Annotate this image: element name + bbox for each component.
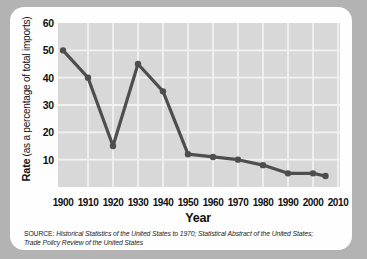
data-point [185, 151, 191, 157]
y-tick-label: 10 [43, 154, 55, 166]
page-background: 1020304050601900191019201930194019501960… [0, 0, 367, 259]
data-point [310, 170, 316, 176]
source-text-line2: Trade Policy Review of the United States [24, 238, 344, 247]
data-point [260, 162, 266, 168]
source-label: SOURCE: [24, 230, 54, 237]
x-tick-label: 1980 [253, 197, 274, 208]
x-tick-label: 1930 [128, 197, 149, 208]
y-tick-label: 60 [43, 17, 55, 29]
x-tick-label: 1970 [228, 197, 249, 208]
y-tick-label: 40 [43, 72, 55, 84]
data-point [235, 156, 241, 162]
x-tick-label: 1950 [178, 197, 199, 208]
y-axis-title-rate: Rate [20, 158, 32, 181]
source-note: SOURCE:Historical Statistics of the Unit… [24, 229, 344, 247]
data-point [285, 170, 291, 176]
source-line-1: SOURCE:Historical Statistics of the Unit… [24, 229, 344, 238]
y-axis-title: Rate(as a percentage of total imports) [20, 17, 32, 182]
x-tick-label: 1910 [78, 197, 99, 208]
tariff-rate-line-chart: 1020304050601900191019201930194019501960… [0, 0, 367, 259]
x-tick-label: 1920 [103, 197, 124, 208]
y-axis-title-desc: (as a percentage of total imports) [21, 17, 32, 157]
data-point [85, 74, 91, 80]
x-tick-label: 1900 [53, 197, 74, 208]
y-tick-label: 20 [43, 126, 55, 138]
source-text-line1: Historical Statistics of the United Stat… [56, 230, 313, 237]
data-point [135, 61, 141, 67]
data-point [160, 88, 166, 94]
x-tick-label: 1940 [153, 197, 174, 208]
data-point [110, 143, 116, 149]
data-point [210, 154, 216, 160]
data-point [322, 173, 328, 179]
x-tick-label: 1990 [278, 197, 299, 208]
y-tick-label: 50 [43, 44, 55, 56]
x-tick-label: 1960 [203, 197, 224, 208]
x-tick-label: 2010 [328, 197, 349, 208]
y-tick-label: 30 [43, 99, 55, 111]
x-axis-title: Year [185, 211, 211, 225]
data-point [60, 47, 66, 53]
x-tick-label: 2000 [303, 197, 324, 208]
